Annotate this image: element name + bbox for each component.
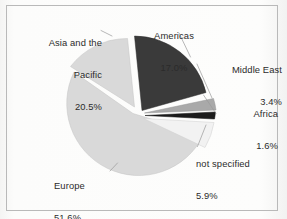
leader-line-asia-pacific (101, 31, 112, 37)
pie-label-not-specified: not specified 5.9% (196, 138, 280, 219)
pie-label-europe: Europe 51.6% (54, 160, 120, 219)
pie-label-not-specified-value: 5.9% (196, 191, 280, 202)
pie-chart-figure: Asia and the Pacific 20.5% Americas 17.0… (0, 0, 287, 219)
pie-label-not-specified-name: not specified (196, 159, 280, 170)
pie-label-asia-pacific-line1: Asia and the (22, 38, 102, 49)
pie-label-asia-pacific-line2: Pacific (22, 70, 102, 81)
pie-label-asia-pacific-value: 20.5% (22, 102, 102, 113)
pie-label-africa-name: Africa (206, 109, 278, 120)
pie-label-europe-value: 51.6% (54, 213, 120, 219)
pie-label-europe-name: Europe (54, 181, 120, 192)
pie-label-middle-east-name: Middle East (198, 65, 282, 76)
pie-label-americas-name: Americas (138, 31, 210, 42)
pie-label-asia-pacific: Asia and the Pacific 20.5% (22, 17, 102, 134)
